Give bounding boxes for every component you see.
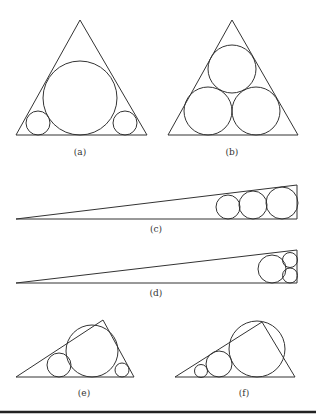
panel-d: (d) [16, 250, 298, 298]
inscribed-circle [232, 87, 280, 135]
panel-a: (a) [16, 20, 147, 157]
panel-label: (b) [226, 147, 239, 157]
panel-f: (f) [175, 321, 295, 398]
panels-group: (a)(b)(c)(d)(e)(f) [16, 20, 298, 398]
inscribed-circle [47, 353, 71, 377]
inscribed-circle [258, 255, 286, 283]
panel-label: (e) [78, 388, 90, 398]
triangle-shape [16, 320, 134, 377]
inscribed-circle [66, 325, 118, 377]
panel-label: (a) [74, 147, 86, 157]
triangle-shape [16, 185, 297, 219]
triangle-shape [16, 250, 297, 283]
inscribed-circle [216, 195, 240, 219]
panel-label: (f) [239, 388, 249, 398]
panel-c: (c) [16, 185, 298, 234]
panel-label: (d) [150, 288, 163, 298]
panel-b: (b) [168, 20, 298, 157]
inscribed-circle [43, 61, 117, 135]
inscribed-circle [113, 111, 137, 135]
inscribed-circle [195, 365, 208, 378]
inscribed-circle [26, 111, 50, 135]
panel-label: (c) [150, 224, 162, 234]
inscribed-circle [239, 191, 267, 219]
triangle-shape [16, 20, 147, 135]
figure-canvas: (a)(b)(c)(d)(e)(f) [0, 0, 316, 417]
inscribed-circle [115, 363, 129, 377]
inscribed-circle [206, 351, 232, 377]
inscribed-circle [266, 187, 298, 219]
inscribed-circle [229, 321, 285, 377]
inscribed-circle [208, 45, 256, 93]
panel-e: (e) [16, 320, 134, 398]
inscribed-circle [283, 253, 298, 268]
inscribed-circle [184, 87, 232, 135]
